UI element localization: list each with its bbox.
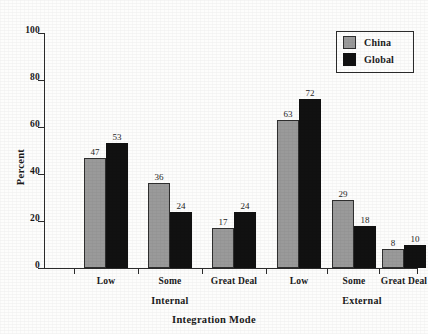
bar-global-0: 53 <box>106 143 128 268</box>
y-tick-0: 0 <box>44 268 50 269</box>
y-tick-label: 100 <box>25 25 40 35</box>
legend-swatch-china <box>343 36 356 49</box>
legend-entry-global: Global <box>343 53 394 66</box>
x-tick-1 <box>138 268 139 274</box>
bar-value-label: 53 <box>113 132 122 142</box>
y-axis-title: Percent <box>15 149 26 185</box>
bar-value-label: 18 <box>361 215 370 225</box>
y-axis-line <box>44 33 45 269</box>
bar-china-4: 29 <box>332 200 354 268</box>
category-label-4: Some <box>343 276 366 286</box>
category-label-1: Some <box>159 276 182 286</box>
panel-label-external: External <box>342 295 382 306</box>
bar-china-0: 47 <box>84 158 106 268</box>
bar-value-label: 24 <box>241 201 250 211</box>
bar-global-5: 10 <box>404 245 426 269</box>
legend-label-china: China <box>364 37 391 48</box>
bar-chart-figure: Percent 020406080100 4753362417246372291… <box>0 0 428 334</box>
x-tick-5 <box>379 268 380 274</box>
y-tick-label: 20 <box>30 213 40 223</box>
bar-value-label: 8 <box>391 238 396 248</box>
x-tick-6 <box>417 268 418 274</box>
bar-china-1: 36 <box>148 183 170 268</box>
x-tick-4 <box>327 268 328 274</box>
bar-china-2: 17 <box>212 228 234 268</box>
x-tick-2 <box>202 268 203 274</box>
bar-china-5: 8 <box>382 249 404 268</box>
y-tick-100: 100 <box>44 33 50 34</box>
legend-label-global: Global <box>364 54 394 65</box>
bar-china-3: 63 <box>277 120 299 268</box>
y-tick-40: 40 <box>44 174 50 175</box>
bar-global-2: 24 <box>234 212 256 268</box>
bar-global-3: 72 <box>299 99 321 268</box>
y-tick-label: 40 <box>30 166 40 176</box>
legend-swatch-global <box>343 53 356 66</box>
y-tick-60: 60 <box>44 127 50 128</box>
bar-value-label: 47 <box>91 147 100 157</box>
y-tick-20: 20 <box>44 221 50 222</box>
panel-label-internal: Internal <box>151 295 188 306</box>
bar-value-label: 29 <box>339 189 348 199</box>
bar-global-4: 18 <box>354 226 376 268</box>
bar-value-label: 10 <box>411 234 420 244</box>
legend-entry-china: China <box>343 36 391 49</box>
category-label-5: Great Deal <box>381 276 427 286</box>
bar-value-label: 17 <box>219 217 228 227</box>
x-tick-0 <box>74 268 75 274</box>
bar-value-label: 36 <box>155 172 164 182</box>
bar-global-1: 24 <box>170 212 192 268</box>
bar-value-label: 24 <box>177 201 186 211</box>
category-label-2: Great Deal <box>211 276 257 286</box>
category-label-0: Low <box>97 276 116 286</box>
bar-value-label: 63 <box>284 109 293 119</box>
x-axis-title: Integration Mode <box>0 314 428 325</box>
y-tick-80: 80 <box>44 80 50 81</box>
x-tick-3 <box>266 268 267 274</box>
y-tick-label: 60 <box>30 119 40 129</box>
x-axis-line <box>44 268 417 269</box>
bar-value-label: 72 <box>306 88 315 98</box>
y-tick-label: 80 <box>30 72 40 82</box>
chart-legend: China Global <box>336 31 414 73</box>
category-label-3: Low <box>290 276 309 286</box>
y-tick-label: 0 <box>35 260 40 270</box>
